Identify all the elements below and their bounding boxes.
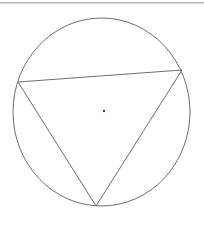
circle-outline [13, 18, 190, 206]
figure-canvas [0, 0, 204, 225]
geometry-drawing [0, 0, 204, 225]
center-point-marker [103, 110, 105, 112]
inscribed-triangle [18, 70, 182, 206]
